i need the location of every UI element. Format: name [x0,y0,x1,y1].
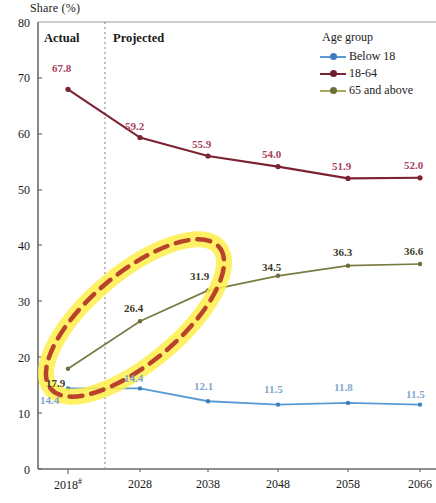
series-markers-18-64 [65,87,422,181]
data-label-1864-2038: 55.9 [192,138,211,150]
data-label-below18-2066: 11.5 [406,388,425,400]
data-label-65-2058: 36.3 [333,246,352,258]
data-label-1864-2066: 52.0 [404,159,423,171]
data-label-1864-2018: 67.8 [52,62,71,74]
data-label-65-2018: 17.9 [46,377,65,389]
legend-label-18-64: 18-64 [349,66,377,81]
legend-marker-below-18 [320,51,346,63]
data-label-65-2038: 31.9 [190,270,209,282]
data-label-below18-2048: 11.5 [264,383,283,395]
data-label-65-2028: 26.4 [124,302,143,314]
legend-label-65-and-above: 65 and above [349,83,413,98]
data-label-1864-2028: 59.2 [125,120,144,132]
data-label-below18-2058: 11.8 [334,381,353,393]
legend-item-below-18[interactable]: Below 18 [320,48,413,65]
legend-title: Age group [320,30,413,45]
chart-legend: Age group Below 18 18-64 65 and above [320,30,413,99]
data-label-65-2048: 34.5 [262,261,281,273]
legend-marker-18-64 [320,68,346,80]
legend-item-65-and-above[interactable]: 65 and above [320,82,413,99]
x-tick-marks [68,469,420,474]
data-label-below18-2038: 12.1 [194,380,213,392]
data-label-below18-2018: 14.4 [40,394,59,406]
data-label-65-2066: 36.6 [404,245,423,257]
legend-item-18-64[interactable]: 18-64 [320,65,413,82]
data-label-1864-2058: 51.9 [332,160,351,172]
legend-label-below-18: Below 18 [349,49,395,64]
data-label-below18-2028: 14.4 [124,372,143,384]
series-line-18-64 [68,89,420,178]
legend-marker-65-and-above [320,85,346,97]
chart-container: Share (%) 80 70 60 50 40 30 20 10 0 2018… [0,0,436,503]
data-label-1864-2048: 54.0 [262,148,281,160]
highlight-ellipse [22,213,248,423]
